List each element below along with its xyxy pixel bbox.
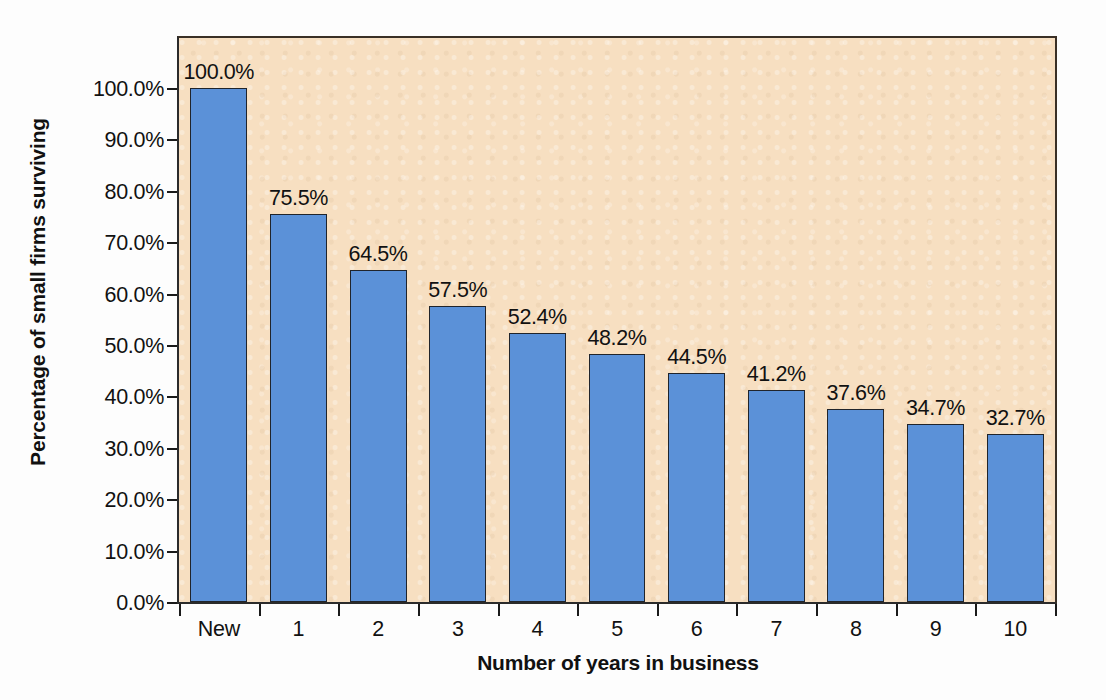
bar bbox=[827, 409, 884, 602]
x-axis-tick-mark bbox=[179, 604, 181, 616]
x-axis-title: Number of years in business bbox=[177, 651, 1059, 675]
y-axis-tick-label: 30.0% bbox=[54, 436, 164, 461]
x-axis-tick-mark bbox=[657, 604, 659, 616]
y-axis-tick-label: 20.0% bbox=[54, 488, 164, 513]
x-axis-tick-label: 10 bbox=[975, 617, 1055, 642]
x-axis-tick-mark bbox=[338, 604, 340, 616]
x-axis-tick-mark bbox=[736, 604, 738, 616]
bar bbox=[509, 333, 566, 602]
x-axis-tick-label: New bbox=[179, 617, 259, 642]
y-axis-tick-label: 80.0% bbox=[54, 179, 164, 204]
x-axis-tick-label: 7 bbox=[736, 617, 816, 642]
y-axis-tick-label: 0.0% bbox=[54, 591, 164, 616]
y-axis-tick-label: 100.0% bbox=[54, 77, 164, 102]
bar bbox=[589, 354, 646, 602]
bar bbox=[987, 434, 1044, 602]
bar bbox=[270, 214, 327, 602]
x-axis-tick-label: 8 bbox=[816, 617, 896, 642]
y-axis-tick-label: 90.0% bbox=[54, 128, 164, 153]
x-axis-tick-mark bbox=[816, 604, 818, 616]
bar-value-label: 57.5% bbox=[398, 278, 517, 303]
x-axis-tick-mark bbox=[1055, 604, 1057, 616]
bar bbox=[668, 373, 725, 602]
bar bbox=[907, 424, 964, 602]
bar-value-label: 64.5% bbox=[318, 242, 437, 267]
x-axis-tick-mark bbox=[259, 604, 261, 616]
bar-value-label: 100.0% bbox=[177, 60, 279, 85]
bar bbox=[190, 88, 247, 602]
y-axis-tick-labels: 0.0%10.0%20.0%30.0%40.0%50.0%60.0%70.0%8… bbox=[52, 0, 164, 700]
plot-area: 100.0%75.5%64.5%57.5%52.4%48.2%44.5%41.2… bbox=[177, 36, 1057, 604]
y-axis-tick-label: 50.0% bbox=[54, 334, 164, 359]
bar bbox=[748, 390, 805, 602]
x-axis-tick-label: 2 bbox=[338, 617, 418, 642]
x-axis-tick-label: 6 bbox=[657, 617, 737, 642]
y-axis-tick-label: 60.0% bbox=[54, 282, 164, 307]
x-axis-tick-mark bbox=[498, 604, 500, 616]
y-axis-tick-label: 70.0% bbox=[54, 231, 164, 256]
x-axis-tick-labels: New12345678910 bbox=[177, 617, 1059, 651]
x-axis-tick-label: 4 bbox=[498, 617, 578, 642]
x-axis-tick-mark bbox=[577, 604, 579, 616]
x-axis-tick-label: 3 bbox=[418, 617, 498, 642]
x-axis-tick-label: 5 bbox=[577, 617, 657, 642]
bar-chart-figure: Percentage of small firms surviving 0.0%… bbox=[0, 0, 1106, 700]
y-axis-tick-label: 10.0% bbox=[54, 539, 164, 564]
x-axis-tick-mark bbox=[418, 604, 420, 616]
x-axis-tick-label: 1 bbox=[259, 617, 339, 642]
bar bbox=[429, 306, 486, 602]
bar bbox=[350, 270, 407, 602]
x-axis-tick-mark bbox=[896, 604, 898, 616]
x-axis-tick-mark bbox=[975, 604, 977, 616]
y-axis-tick-label: 40.0% bbox=[54, 385, 164, 410]
bar-value-label: 32.7% bbox=[955, 406, 1057, 431]
x-axis-tick-label: 9 bbox=[896, 617, 976, 642]
x-axis-tick-marks bbox=[177, 604, 1059, 618]
bar-value-label: 75.5% bbox=[239, 186, 358, 211]
